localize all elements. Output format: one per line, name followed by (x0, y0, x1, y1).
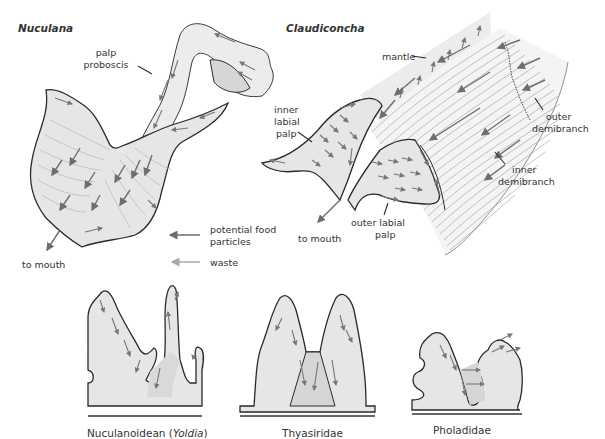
cross-section-thyasiridae: Thyasiridae (240, 294, 375, 439)
label-inner-labial-palp-3: palp (276, 128, 297, 139)
cross-section-pholadidae: Pholadidae (412, 333, 522, 436)
leader-palp-proboscis (138, 66, 152, 74)
nuculana-title: Nuculana (18, 22, 73, 34)
caption-yoldia: Nuculanoidean (Yoldia) (87, 427, 208, 439)
label-palp-proboscis-2: proboscis (83, 59, 128, 70)
label-outer-labial-palp-2: palp (375, 229, 396, 240)
legend: potential food particles waste (170, 224, 276, 268)
leader-outer-labial-palp (384, 203, 388, 215)
figure-canvas: Nuculana (0, 0, 605, 439)
label-outer-labial-palp-1: outer labial (351, 217, 405, 228)
cross-section-yoldia: Nuculanoidean (Yoldia) (87, 286, 208, 439)
caption-pholadidae: Pholadidae (433, 424, 491, 436)
label-palp-proboscis-1: palp (96, 47, 117, 58)
leader-inner-labial-palp (298, 132, 312, 142)
label-inner-labial-palp-1: inner (274, 104, 299, 115)
nuculana-palp-body (31, 90, 228, 250)
legend-waste-label: waste (210, 257, 238, 268)
label-to-mouth-nuculana: to mouth (22, 259, 65, 270)
claudiconcha-title: Claudiconcha (286, 22, 365, 34)
caption-thyasiridae: Thyasiridae (281, 427, 343, 439)
legend-food-label-2: particles (210, 236, 251, 247)
label-inner-demibranch-1: inner (512, 164, 537, 175)
claudiconcha-panel: Claudiconcha (262, 12, 589, 255)
label-mantle: mantle (382, 51, 415, 62)
label-outer-demibranch-2: demibranch (532, 123, 589, 134)
legend-food-label-1: potential food (210, 224, 276, 235)
label-outer-demibranch-1: outer (546, 111, 571, 122)
label-inner-labial-palp-2: labial (274, 116, 300, 127)
label-inner-demibranch-2: demibranch (498, 176, 555, 187)
label-to-mouth-claudiconcha: to mouth (298, 233, 341, 244)
